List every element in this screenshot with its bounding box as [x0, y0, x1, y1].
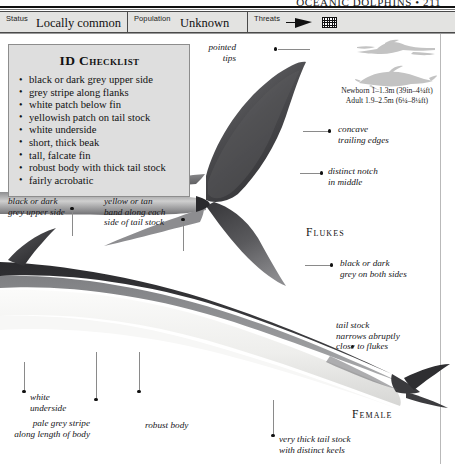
checklist-item: tall, falcate fin — [18, 150, 181, 163]
leader-robust-body — [139, 352, 140, 390]
field-guide-page: OCEANIC DOLPHINS • 211 Status Locally co… — [0, 0, 455, 464]
human-swimmer-silhouette — [355, 38, 437, 60]
leader-notch — [300, 173, 320, 174]
leader-pointed-tips — [278, 49, 310, 50]
checklist-item: white patch below fin — [18, 99, 181, 112]
status-cell-status: Status Locally common — [0, 12, 128, 32]
checklist-item: white underside — [18, 124, 181, 137]
leader-thick-tail — [273, 400, 274, 434]
status-cell-value: Locally common — [36, 17, 121, 31]
checklist-item: fairly acrobatic — [18, 175, 181, 188]
population-cell-label: Population — [134, 14, 170, 23]
checklist-item: robust body with thick tail stock — [18, 162, 181, 175]
section-label-female: Female — [352, 408, 393, 420]
header-rule-thick — [0, 6, 455, 8]
callout-black-both-sides: black or darkgrey on both sides — [340, 258, 446, 279]
scale-comparison — [355, 38, 437, 91]
header-rule-thin — [0, 9, 455, 10]
checklist-item: black or dark grey upper side — [18, 74, 181, 87]
id-checklist-list: black or dark grey upper side grey strip… — [18, 74, 181, 187]
callout-white-underside: whiteunderside — [30, 392, 90, 413]
section-label-flukes: Flukes — [306, 226, 345, 238]
callout-robust-body: robust body — [145, 420, 225, 431]
threats-cell-label: Threats — [254, 14, 280, 23]
leader-concave — [303, 131, 328, 132]
callout-tail-stock-narrows: tail stocknarrows abruptlyclose to fluke… — [336, 320, 440, 352]
scale-text: Newborn 1–1.3m (39in–4¼ft) Adult 1.9–2.5… — [335, 86, 439, 106]
fishing-net-icon — [322, 17, 337, 28]
status-cell-population: Population Unknown — [128, 12, 248, 32]
callout-pale-grey-stripe: pale grey stripealong length of body — [0, 418, 90, 439]
leader-pale-stripe — [96, 352, 97, 398]
leader-white-underside — [24, 362, 25, 390]
checklist-item: short, thick beak — [18, 137, 181, 150]
harpoon-icon — [286, 18, 312, 28]
callout-concave-trailing-edges: concavetrailing edges — [338, 124, 438, 145]
leader-black-both — [305, 265, 330, 266]
population-cell-value: Unknown — [180, 17, 229, 31]
callout-thick-tail-keels: very thick tail stockwith distinct keels — [279, 434, 409, 455]
status-cell-threats: Threats — [248, 12, 455, 32]
scale-adult: Adult 1.9–2.5m (6¼–8¼ft) — [335, 96, 439, 106]
callout-yellow-band: yellow or tanband along eachside of tail… — [104, 196, 198, 228]
threat-icon-group — [286, 17, 337, 30]
status-cell-label: Status — [6, 14, 28, 23]
checklist-item: grey stripe along flanks — [18, 87, 181, 100]
checklist-item: yellowish patch on tail stock — [18, 112, 181, 125]
id-checklist-panel: ID Checklist black or dark grey upper si… — [8, 44, 190, 197]
status-bar: Status Locally common Population Unknown… — [0, 11, 455, 33]
scale-newborn: Newborn 1–1.3m (39in–4¼ft) — [335, 86, 439, 96]
callout-distinct-notch: distinct notchin middle — [328, 166, 428, 187]
id-checklist-title: ID Checklist — [18, 53, 181, 69]
callout-black-upper-side: black or darkgrey upper side — [8, 196, 92, 217]
